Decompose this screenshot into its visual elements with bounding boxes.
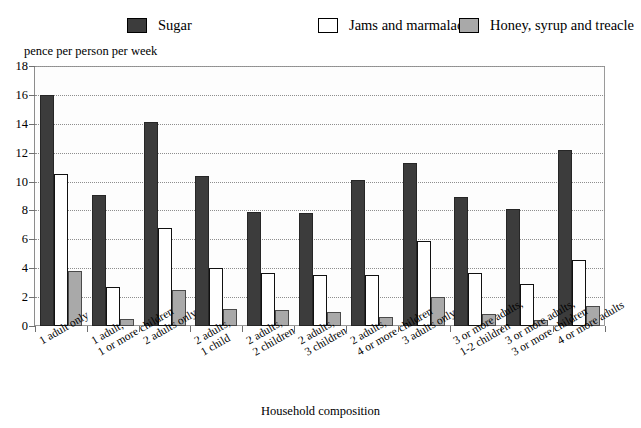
- legend-item-sugar: Sugar: [127, 18, 192, 33]
- bar-group: [139, 66, 191, 326]
- bar: [327, 312, 341, 326]
- legend-label-sugar: Sugar: [158, 18, 192, 33]
- bar: [40, 95, 54, 326]
- y-axis-tick-labels: 024681012141618: [0, 0, 28, 428]
- bar: [482, 314, 496, 326]
- bar: [68, 271, 82, 326]
- y-axis-tick-label: 8: [4, 204, 28, 217]
- x-axis-tick: [501, 326, 502, 332]
- bar: [468, 273, 482, 326]
- x-axis-tick-label-line: 1 child: [199, 327, 239, 357]
- bar: [158, 228, 172, 326]
- y-axis-tick-label: 6: [4, 233, 28, 246]
- bar: [209, 268, 223, 326]
- legend-label-jams: Jams and marmalade: [349, 18, 471, 33]
- y-axis-tick-label: 16: [4, 89, 28, 102]
- x-axis-tick: [346, 326, 347, 332]
- bar-group: [450, 66, 502, 326]
- x-axis-tick: [398, 326, 399, 332]
- bar: [172, 290, 186, 326]
- bar: [365, 275, 379, 326]
- x-axis-tick: [605, 326, 606, 332]
- bar: [299, 213, 313, 326]
- bar-group: [242, 66, 294, 326]
- x-axis-tick: [294, 326, 295, 332]
- bar: [572, 260, 586, 326]
- bar-group: [35, 66, 87, 326]
- bar-group: [501, 66, 553, 326]
- y-axis-tick-label: 2: [4, 291, 28, 304]
- bar-group: [87, 66, 139, 326]
- y-axis-tick-label: 0: [4, 320, 28, 333]
- bar: [351, 180, 365, 326]
- bar: [144, 122, 158, 326]
- legend-swatch-jams-icon: [318, 18, 338, 33]
- x-axis-tick: [35, 326, 36, 332]
- bar: [506, 209, 520, 326]
- bar-groups: [35, 66, 605, 326]
- bar-group: [294, 66, 346, 326]
- bar-group: [346, 66, 398, 326]
- x-axis-tick-label-line: 2 children: [250, 324, 296, 358]
- legend-label-honey: Honey, syrup and treacle: [490, 18, 634, 33]
- x-axis-tick: [139, 326, 140, 332]
- bar: [558, 150, 572, 326]
- chart-legend: Sugar Jams and marmalade Honey, syrup an…: [0, 12, 641, 38]
- x-axis-tick: [242, 326, 243, 332]
- y-axis-tick-label: 10: [4, 176, 28, 189]
- bar: [92, 195, 106, 326]
- bar: [586, 306, 600, 326]
- bar: [120, 319, 134, 326]
- x-axis-title: Household composition: [0, 404, 641, 418]
- bar: [261, 273, 275, 326]
- bar-group: [553, 66, 605, 326]
- x-axis-tick-label-line: 3 children: [302, 324, 348, 358]
- bar: [313, 275, 327, 326]
- bar-group: [398, 66, 450, 326]
- x-axis-tick: [87, 326, 88, 332]
- y-axis-tick-label: 12: [4, 147, 28, 160]
- bar: [379, 317, 393, 326]
- bar: [454, 197, 468, 326]
- bar: [195, 176, 209, 326]
- bar: [520, 284, 534, 326]
- bar: [223, 309, 237, 326]
- y-axis-tick-label: 18: [4, 60, 28, 73]
- bar: [534, 320, 548, 326]
- x-axis-tick: [190, 326, 191, 332]
- y-axis-tick-label: 14: [4, 118, 28, 131]
- bar: [417, 241, 431, 326]
- x-axis-tick: [450, 326, 451, 332]
- bar: [403, 163, 417, 326]
- bar: [54, 174, 68, 326]
- bar: [247, 212, 261, 326]
- bar-group: [190, 66, 242, 326]
- bar: [431, 297, 445, 326]
- legend-swatch-sugar-icon: [127, 18, 147, 33]
- bar: [275, 310, 289, 326]
- legend-item-honey: Honey, syrup and treacle: [459, 18, 634, 33]
- y-axis-tick-label: 4: [4, 262, 28, 275]
- legend-swatch-honey-icon: [459, 18, 479, 33]
- bar: [106, 287, 120, 326]
- y-axis-title: pence per person per week: [24, 45, 157, 58]
- legend-item-jams: Jams and marmalade: [318, 18, 471, 33]
- x-axis-tick: [553, 326, 554, 332]
